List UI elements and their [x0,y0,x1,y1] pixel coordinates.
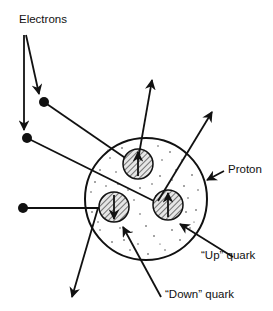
down-quark-label: “Down” quark [165,289,234,301]
down-quark-left [99,192,129,222]
up-quark-top [123,149,153,179]
electron-1-track [44,102,134,164]
proton-scattering-diagram [0,0,273,311]
electrons [18,97,49,213]
electrons-label: Electrons [19,14,67,26]
electron-1-dot [39,97,49,107]
proton-label: Proton [228,164,262,176]
up-quark-label: “Up” quark [201,250,255,262]
electrons-pointer-1 [26,35,39,94]
electron-2-dot [22,133,32,143]
scattered-electron-3-arrow [72,208,98,297]
proton-pointer [207,171,224,180]
up-quark-right [153,190,183,220]
electron-3-dot [18,203,28,213]
